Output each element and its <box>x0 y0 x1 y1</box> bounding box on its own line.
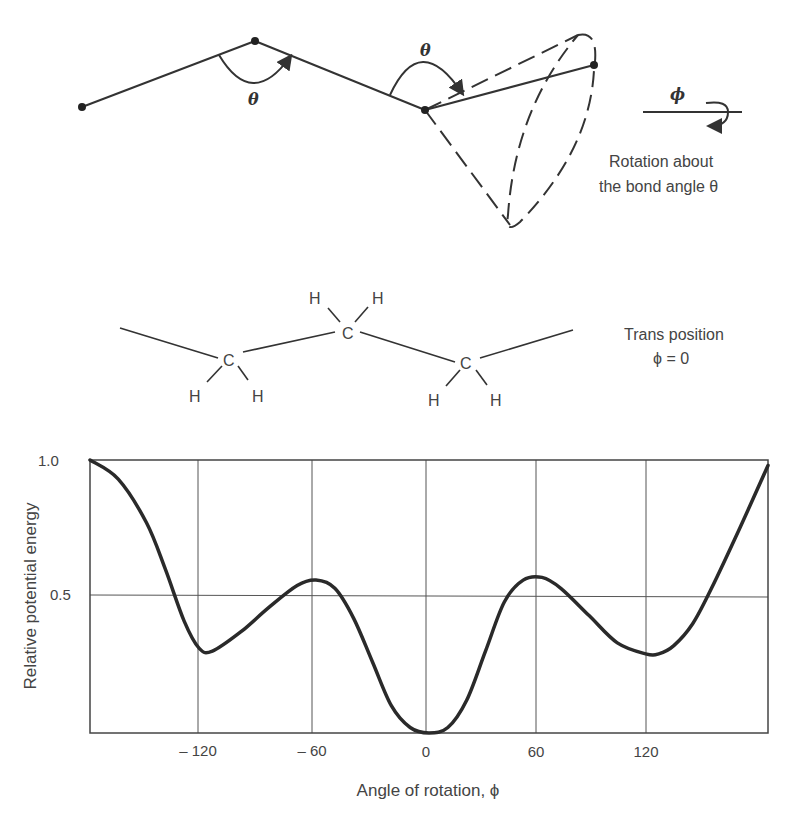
rotation-caption-line1: Rotation about <box>609 153 713 171</box>
x-tick-label: 60 <box>528 743 545 760</box>
bond-angle-arc-2 <box>390 62 462 95</box>
x-tick-label: 0 <box>422 743 430 760</box>
x-axis-label: Angle of rotation, ϕ <box>357 781 500 800</box>
figure-canvas: θ θ ϕ C C C H H H H H H <box>0 0 798 826</box>
y-tick-label: 0.5 <box>50 586 71 603</box>
x-tick-label: – 120 <box>179 742 217 759</box>
hydrogen-atom: H <box>189 388 201 405</box>
bond-angle-arc-1 <box>219 55 290 83</box>
phi-label: ϕ <box>670 85 685 104</box>
theta-label-2: θ <box>420 41 431 60</box>
x-tick-label: – 60 <box>297 742 326 759</box>
hydrogen-atom: H <box>309 290 321 307</box>
hydrogen-atom: H <box>428 392 440 409</box>
x-tick-label: 120 <box>633 743 658 760</box>
bond-chain-diagram <box>82 34 595 227</box>
y-tick-labels: 1.0 0.5 <box>38 452 71 603</box>
trans-caption-line2: ϕ = 0 <box>653 350 689 368</box>
x-tick-labels: – 120 – 60 0 60 120 <box>179 742 658 760</box>
molecule-skeleton <box>120 307 573 386</box>
y-axis-label: Relative potential energy <box>21 502 40 690</box>
molecule-atoms: C C C H H H H H H <box>189 290 502 409</box>
rotation-caption-line2: the bond angle θ <box>599 178 718 196</box>
theta-label-1: θ <box>248 90 259 109</box>
y-tick-label: 1.0 <box>38 452 59 469</box>
rotation-axis-icon <box>643 102 742 126</box>
carbon-atom: C <box>460 355 472 372</box>
carbon-atom: C <box>342 325 354 342</box>
trans-caption-line1: Trans position <box>624 326 724 344</box>
hydrogen-atom: H <box>372 290 384 307</box>
chart-gridlines <box>90 460 768 733</box>
carbon-atom: C <box>223 352 235 369</box>
hydrogen-atom: H <box>252 388 264 405</box>
hydrogen-atom: H <box>490 392 502 409</box>
